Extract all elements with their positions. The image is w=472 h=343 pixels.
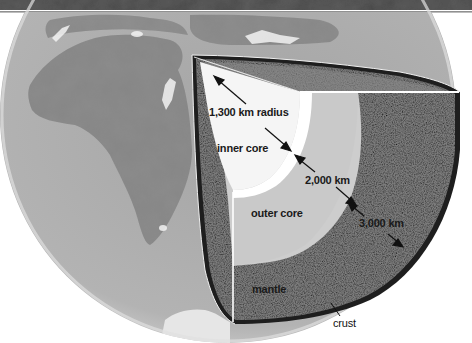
label-mantle-thickness: 3,000 km [359,217,404,229]
top-band [0,0,472,12]
diagram-canvas [0,0,472,343]
label-crust: crust [333,317,356,329]
label-outer-core: outer core [251,207,303,219]
label-mantle: mantle [252,283,286,295]
label-inner-core-radius: 1,300 km radius [209,106,289,118]
cutaway [192,55,460,324]
label-inner-core: inner core [217,142,268,154]
earth-interior-diagram: 1,300 km radius inner core 2,000 km oute… [0,0,472,343]
label-outer-core-thickness: 2,000 km [305,174,350,186]
